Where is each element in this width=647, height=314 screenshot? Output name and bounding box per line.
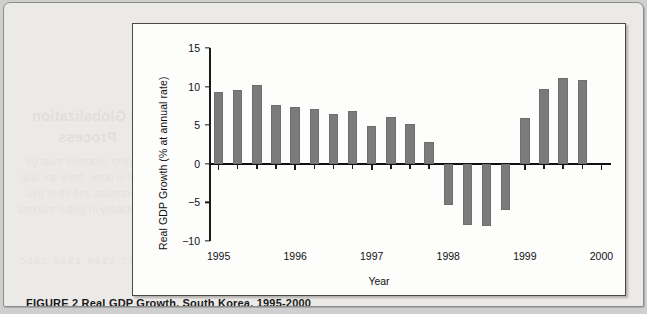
chart-bar — [367, 126, 377, 164]
x-axis-tick-mark — [601, 165, 603, 170]
x-axis-tick-mark — [524, 165, 526, 170]
chart-bar — [578, 80, 588, 164]
x-axis-year-label: 1999 — [513, 250, 536, 262]
scanned-page-sheet: Perversions of the Current Globalization… — [3, 2, 644, 307]
x-axis-tick-mark — [275, 165, 276, 169]
x-axis-tick-mark — [333, 165, 334, 169]
x-axis-tick-mark — [352, 165, 353, 169]
y-axis-tick-label: 0 — [166, 159, 200, 170]
y-axis-tick-label: 5 — [166, 120, 200, 131]
chart-bar — [214, 92, 224, 164]
chart-bar — [310, 109, 320, 164]
x-axis-title: Year — [133, 275, 625, 287]
chart-bar — [348, 111, 358, 163]
x-axis-year-label: 1996 — [283, 250, 306, 262]
chart-bar — [405, 124, 415, 163]
gdp-growth-bar-chart: Real GDP Growth (% at annual rate) 15105… — [133, 24, 625, 295]
x-axis-tick-mark — [543, 165, 544, 169]
x-axis-tick-mark — [256, 165, 257, 169]
y-axis-tick-label: 15 — [166, 43, 200, 54]
bleed-heading-2: Process — [58, 128, 116, 145]
chart-bar — [271, 105, 281, 164]
x-axis-tick-mark — [218, 165, 220, 170]
chart-bar — [539, 89, 549, 164]
x-axis-tick-mark — [371, 165, 373, 170]
x-axis-year-label: 2000 — [590, 250, 613, 262]
chart-bar — [233, 90, 243, 163]
chart-bar — [482, 164, 492, 227]
x-axis-year-label: 1995 — [207, 250, 230, 262]
chart-bar — [386, 117, 396, 163]
y-axis-tick-label: −10 — [166, 236, 200, 247]
x-axis-tick-mark — [314, 165, 315, 169]
chart-bar — [329, 114, 339, 164]
figure-caption: FIGURE 2 Real GDP Growth, South Korea, 1… — [26, 297, 311, 307]
x-axis-tick-mark — [294, 165, 296, 170]
figure-frame: Real GDP Growth (% at annual rate) 15105… — [132, 23, 626, 296]
y-axis-tick-label: −5 — [166, 197, 200, 208]
y-axis-tick-label: 10 — [166, 81, 200, 92]
x-axis-year-label: 1998 — [437, 250, 460, 262]
x-axis-year-label: 1997 — [360, 250, 383, 262]
chart-bar — [444, 164, 454, 206]
chart-bar — [520, 118, 530, 164]
chart-bar — [463, 164, 473, 225]
x-axis-tick-mark — [562, 165, 563, 169]
x-axis-tick-mark — [409, 165, 410, 169]
chart-bar — [290, 107, 300, 163]
chart-bar — [252, 85, 262, 164]
plot-bars-layer — [209, 48, 611, 241]
chart-bar — [501, 164, 511, 210]
x-axis-tick-mark — [390, 165, 391, 169]
x-axis-tick-mark — [428, 165, 429, 169]
chart-bar — [558, 78, 568, 164]
x-axis-tick-mark — [582, 165, 583, 169]
chart-bar — [424, 142, 434, 164]
x-axis-tick-mark — [237, 165, 238, 169]
